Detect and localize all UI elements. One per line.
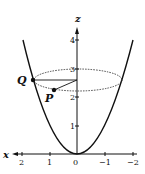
z-tick-4: 4 — [70, 36, 75, 45]
z-axis-arrow-icon — [75, 27, 79, 34]
x-tick-0: 0 — [73, 158, 78, 167]
x-axis-label: x — [2, 149, 10, 160]
x-tick-neg2: −2 — [127, 158, 139, 167]
paraboloid-diagram: x 2 1 0 −1 −2 z 1 2 3 4 Q — [0, 0, 145, 174]
x-tick-2: 2 — [19, 158, 24, 167]
z-tick-2: 2 — [70, 93, 75, 102]
z-axis: z 1 2 3 4 — [70, 13, 81, 154]
x-tick-1: 1 — [47, 158, 52, 167]
point-P-label: P — [44, 92, 54, 105]
point-Q-label: Q — [17, 74, 27, 87]
point-Q-marker — [31, 78, 35, 82]
radius-to-P — [54, 80, 77, 90]
x-tick-neg1: −1 — [99, 158, 111, 167]
z-tick-1: 1 — [70, 122, 75, 131]
x-axis-arrow-icon — [12, 152, 18, 156]
z-axis-label: z — [74, 13, 81, 24]
